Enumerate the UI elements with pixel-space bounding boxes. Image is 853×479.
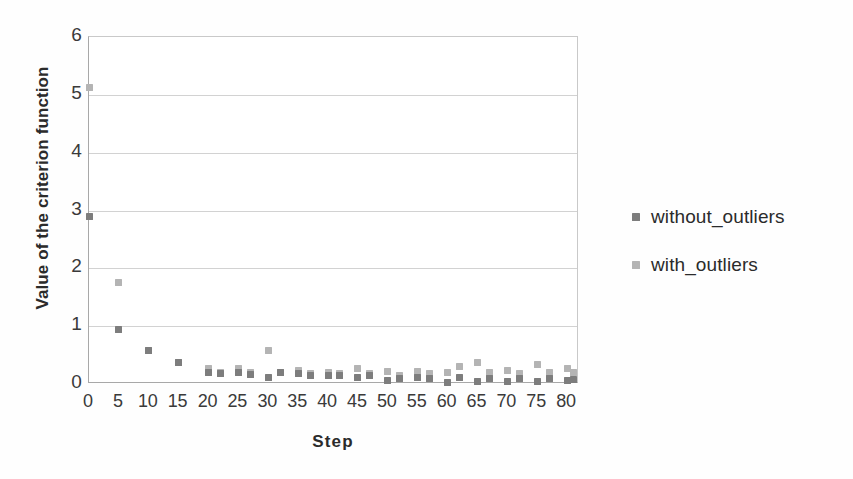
data-point	[175, 359, 182, 366]
data-point	[384, 368, 391, 375]
data-point	[474, 378, 481, 385]
data-point	[546, 375, 553, 382]
data-point	[115, 326, 122, 333]
plot-area	[88, 36, 578, 383]
y-tick-label: 6	[48, 24, 82, 46]
data-point	[516, 375, 523, 382]
data-point	[426, 375, 433, 382]
data-point	[277, 369, 284, 376]
gridline	[89, 268, 577, 269]
data-point	[247, 371, 254, 378]
data-point	[474, 359, 481, 366]
data-point	[265, 374, 272, 381]
data-point	[235, 369, 242, 376]
y-axis-title: Value of the criterion function	[33, 38, 53, 338]
gridline	[89, 95, 577, 96]
data-point	[366, 372, 373, 379]
data-point	[336, 372, 343, 379]
x-tick-label: 80	[546, 391, 586, 412]
data-point	[307, 372, 314, 379]
legend-label: without_outliers	[651, 206, 785, 228]
y-tick-label: 0	[48, 371, 82, 393]
data-point	[325, 372, 332, 379]
data-point	[534, 361, 541, 368]
data-point	[570, 369, 577, 376]
data-point	[570, 376, 577, 383]
legend-marker-icon	[632, 261, 640, 269]
y-tick-label: 5	[48, 82, 82, 104]
data-point	[504, 367, 511, 374]
data-point	[384, 377, 391, 384]
legend-item-without_outliers[interactable]: without_outliers	[632, 206, 842, 228]
data-point	[504, 378, 511, 385]
y-tick-label: 3	[48, 198, 82, 220]
data-point	[217, 370, 224, 377]
data-point	[486, 375, 493, 382]
data-point	[115, 279, 122, 286]
data-point	[354, 374, 361, 381]
legend-marker-icon	[632, 213, 640, 221]
legend-item-with_outliers[interactable]: with_outliers	[632, 254, 842, 276]
data-point	[456, 374, 463, 381]
data-point	[534, 378, 541, 385]
y-tick-label: 2	[48, 255, 82, 277]
data-point	[145, 347, 152, 354]
data-point	[354, 365, 361, 372]
data-point	[396, 375, 403, 382]
data-point	[86, 213, 93, 220]
data-point	[444, 379, 451, 386]
data-point	[295, 370, 302, 377]
data-point	[444, 369, 451, 376]
legend-label: with_outliers	[651, 254, 758, 276]
gridline	[89, 326, 577, 327]
gridline	[89, 153, 577, 154]
y-tick-label: 4	[48, 140, 82, 162]
data-point	[456, 363, 463, 370]
chart-legend: without_outlierswith_outliers	[632, 206, 842, 302]
scatter-chart-figure: 0123456 05101520253035404550556065707580…	[0, 0, 853, 479]
x-axis-title: Step	[88, 432, 578, 452]
data-point	[86, 84, 93, 91]
x-axis-tick-labels: 05101520253035404550556065707580	[88, 391, 578, 419]
data-point	[414, 374, 421, 381]
gridline	[89, 211, 577, 212]
data-point	[265, 347, 272, 354]
y-tick-label: 1	[48, 313, 82, 335]
data-point	[205, 369, 212, 376]
